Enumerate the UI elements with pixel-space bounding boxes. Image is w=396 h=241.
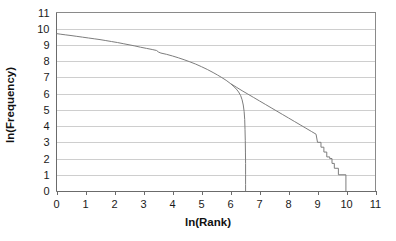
x-tick-label: 0 [53,198,59,210]
x-tick-label: 8 [285,198,291,210]
y-tick-label: 0 [43,185,49,197]
y-tick-label: 10 [37,23,49,35]
x-tick-label: 4 [169,198,175,210]
y-tick-label: 2 [43,153,49,165]
y-tick-label: 9 [43,39,49,51]
x-tick-label: 9 [314,198,320,210]
chart-figure: 01234567891011 01234567891011 ln(Rank) l… [0,0,396,241]
x-tick-label: 1 [82,198,88,210]
y-tick-label: 1 [43,169,49,181]
x-tick-label: 10 [340,198,352,210]
y-axis-title: ln(Frequency) [4,67,16,143]
x-tick-label: 3 [140,198,146,210]
x-axis-title: ln(Rank) [185,216,231,228]
y-tick-label: 4 [43,120,49,132]
y-tick-label: 5 [43,104,49,116]
y-tick-label: 11 [38,7,49,19]
y-tick-label: 6 [43,88,49,100]
x-tick-label: 7 [256,198,262,210]
chart-canvas: 01234567891011 01234567891011 ln(Rank) l… [0,0,396,241]
x-tick-label: 5 [198,198,204,210]
x-tick-label: 11 [370,198,381,210]
y-tick-label: 8 [43,55,49,67]
x-tick-label: 2 [111,198,117,210]
y-tick-label: 7 [43,71,49,83]
y-tick-label: 3 [43,136,49,148]
x-tick-label: 6 [227,198,233,210]
